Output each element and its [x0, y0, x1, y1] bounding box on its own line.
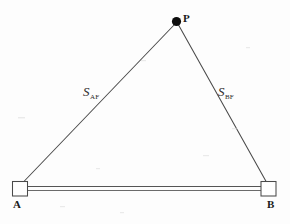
point-label-p: P — [183, 13, 190, 24]
point-marker-p — [172, 17, 181, 26]
line-p-to-b — [178, 24, 268, 184]
point-label-a: A — [13, 199, 21, 210]
segment-subscript-b: BF — [225, 93, 234, 101]
geometry-diagram: P A B SAF SBF — [0, 0, 290, 224]
station-marker-a — [13, 182, 28, 197]
station-marker-b — [261, 182, 276, 197]
segment-subscript-a: AF — [90, 93, 99, 101]
diagram-canvas — [0, 0, 290, 224]
line-a-to-p — [22, 24, 176, 184]
segment-symbol-a: S — [83, 84, 90, 99]
segment-label-b-to-p: SBF — [218, 83, 234, 101]
point-label-b: B — [267, 199, 274, 210]
segment-label-a-to-p: SAF — [83, 83, 99, 101]
segment-symbol-b: S — [218, 84, 225, 99]
scan-noise — [18, 47, 250, 213]
